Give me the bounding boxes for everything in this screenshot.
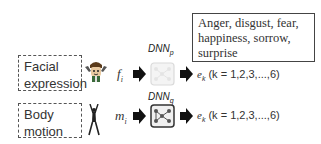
emotion-line-1: Anger, disgust, fear, (198, 16, 309, 31)
body-motion-box: Body motion (18, 103, 82, 138)
neural-network-icon (150, 104, 175, 128)
emotion-categories-box: Anger, disgust, fear, happiness, sorrow,… (192, 13, 315, 62)
face-icon (83, 58, 109, 84)
neural-network-icon (150, 62, 175, 86)
facial-output: ek (k = 1,2,3,...,6) (197, 68, 280, 82)
body-variable: mi (115, 108, 127, 126)
arrow-right-icon (133, 108, 146, 124)
body-label-line2: motion (24, 123, 76, 140)
arrow-right-icon (180, 66, 193, 82)
facial-label-line1: Facial (24, 58, 76, 75)
dnn-p-label: DNNp (148, 43, 174, 56)
body-label-line1: Body (24, 106, 76, 123)
body-output: ek (k = 1,2,3,...,6) (197, 109, 280, 123)
facial-expression-box: Facial expression (18, 55, 82, 91)
facial-variable: fi (117, 66, 123, 84)
facial-label-line2: expression (24, 75, 76, 92)
arrow-right-icon (180, 108, 193, 124)
body-figure-icon (87, 104, 101, 136)
arrow-right-icon (133, 66, 146, 82)
emotion-line-2: happiness, sorrow, (198, 31, 309, 46)
emotion-line-3: surprise (198, 46, 309, 61)
dnn-q-label: DNNq (148, 91, 174, 104)
